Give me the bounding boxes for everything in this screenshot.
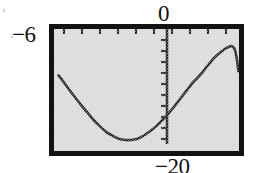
plot-area bbox=[54, 29, 239, 151]
x-axis-ticks bbox=[64, 29, 226, 34]
ymax-label: 0 bbox=[158, 2, 169, 25]
plotted-curve bbox=[59, 46, 239, 140]
calculator-screen bbox=[49, 24, 244, 156]
xmin-label: −6 bbox=[12, 23, 35, 46]
plot-svg bbox=[54, 29, 239, 151]
figure-root: −6 0 −20 bbox=[0, 0, 259, 173]
ymin-label: −20 bbox=[155, 155, 189, 173]
scan-speck bbox=[3, 9, 5, 12]
